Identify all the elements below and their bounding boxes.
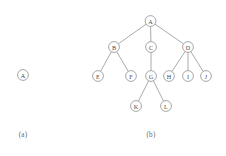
tree-node-b-d[interactable]: D bbox=[183, 42, 194, 53]
tree-diagram-canvas: AABCDEFGHIJKL (a)(b) bbox=[0, 0, 226, 156]
tree-node-b-c[interactable]: C bbox=[146, 42, 157, 53]
node-label: L bbox=[164, 103, 168, 110]
figure-root: AABCDEFGHIJKL (a)(b) bbox=[0, 0, 226, 156]
panel-caption-a: (a) bbox=[19, 131, 28, 139]
tree-node-b-e[interactable]: E bbox=[93, 71, 104, 82]
tree-edge-d-j bbox=[191, 52, 203, 72]
node-label: K bbox=[134, 103, 139, 110]
node-label: A bbox=[148, 18, 153, 25]
node-label: B bbox=[112, 44, 116, 51]
tree-edge-b-f bbox=[117, 52, 129, 72]
tree-edge-g-l bbox=[153, 81, 163, 101]
tree-node-b-l[interactable]: L bbox=[161, 101, 172, 112]
edges-layer bbox=[101, 24, 204, 101]
tree-node-b-k[interactable]: K bbox=[131, 101, 142, 112]
node-label: D bbox=[186, 44, 191, 51]
panel-caption-b: (b) bbox=[147, 131, 156, 139]
captions-layer: (a)(b) bbox=[19, 131, 156, 139]
tree-edge-b-e bbox=[101, 52, 112, 72]
tree-node-b-b[interactable]: B bbox=[109, 42, 120, 53]
node-label: A bbox=[21, 72, 26, 79]
tree-edge-a-d bbox=[155, 24, 184, 44]
node-label: E bbox=[96, 73, 100, 80]
tree-node-b-j[interactable]: J bbox=[201, 71, 212, 82]
node-label: F bbox=[129, 73, 133, 80]
node-label: I bbox=[187, 73, 189, 80]
tree-edge-d-h bbox=[172, 52, 185, 72]
tree-edge-g-k bbox=[138, 81, 148, 101]
tree-node-a-a[interactable]: A bbox=[18, 70, 29, 81]
node-label: C bbox=[149, 44, 153, 51]
node-label: G bbox=[149, 73, 154, 80]
tree-node-b-i[interactable]: I bbox=[183, 71, 194, 82]
tree-node-b-g[interactable]: G bbox=[146, 71, 157, 82]
tree-node-b-f[interactable]: F bbox=[126, 71, 137, 82]
node-label: H bbox=[167, 73, 172, 80]
tree-node-b-h[interactable]: H bbox=[164, 71, 175, 82]
nodes-layer: AABCDEFGHIJKL bbox=[18, 16, 212, 112]
tree-node-b-a[interactable]: A bbox=[145, 16, 156, 27]
tree-edge-a-b bbox=[118, 24, 146, 44]
